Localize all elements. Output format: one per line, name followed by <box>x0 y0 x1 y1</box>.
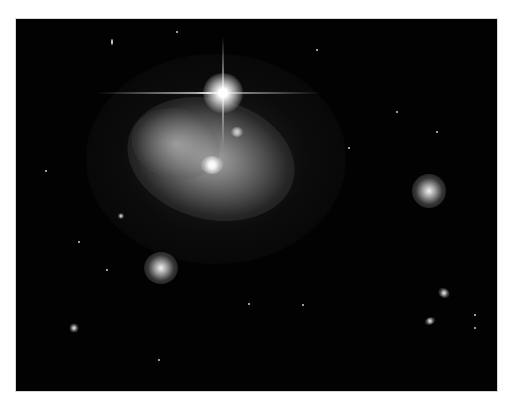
star <box>348 147 350 149</box>
secondary-nucleus <box>231 127 243 137</box>
small-galaxy <box>118 213 124 219</box>
star <box>302 304 304 306</box>
small-galaxy <box>70 324 79 333</box>
star <box>78 241 80 243</box>
star <box>45 170 47 172</box>
star <box>436 131 438 133</box>
star <box>176 31 178 33</box>
small-galaxy <box>437 286 452 300</box>
star <box>396 111 398 113</box>
star <box>474 314 476 316</box>
bright-star <box>203 73 243 113</box>
star <box>111 39 113 45</box>
small-galaxy <box>424 316 437 326</box>
astronomy-image <box>16 19 497 391</box>
galaxy-core <box>201 156 223 174</box>
spiral-galaxy <box>412 174 446 208</box>
star <box>316 49 318 51</box>
star <box>158 359 160 361</box>
star <box>474 327 476 329</box>
star <box>248 303 250 305</box>
elliptical-galaxy <box>144 252 178 284</box>
star <box>106 269 108 271</box>
